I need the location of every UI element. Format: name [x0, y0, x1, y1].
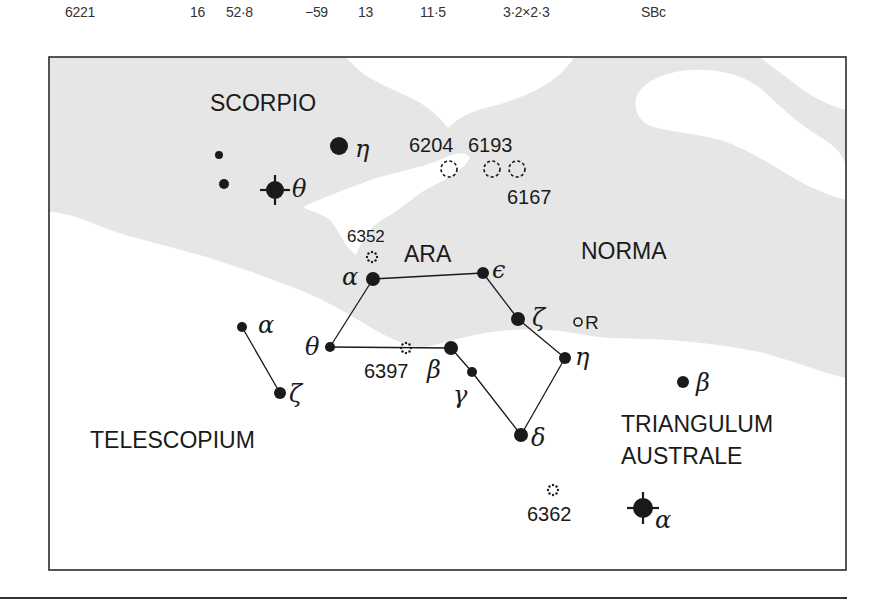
- star-dot-icon: [330, 137, 348, 155]
- star-dot-icon: [266, 181, 284, 199]
- star-greek-label: θ: [292, 175, 307, 203]
- star-dot-icon: [514, 428, 528, 442]
- star-greek-label: δ: [531, 424, 545, 452]
- cluster-label: 6362: [527, 503, 572, 525]
- star-sco-a: [215, 151, 223, 159]
- star-greek-label: β: [426, 356, 441, 384]
- star-dot-icon: [477, 267, 489, 279]
- constellation-name: AUSTRALE: [621, 443, 742, 469]
- star-greek-label: α: [342, 263, 358, 291]
- galaxy-label: 6167: [507, 186, 552, 208]
- star-dot-icon: [215, 151, 223, 159]
- constellation-name: ARA: [404, 241, 452, 267]
- star-dot-icon: [237, 322, 247, 332]
- star-dot-icon: [274, 387, 286, 399]
- star-dot-icon: [467, 367, 477, 377]
- star-dot-icon: [559, 352, 571, 364]
- star-greek-label: θ: [305, 333, 320, 361]
- star-greek-label: γ: [453, 381, 468, 409]
- star-greek-label: α: [655, 506, 671, 534]
- cluster-label: 6397: [364, 360, 409, 382]
- star-chart: 620461936167 635263976362 ηθαϵζηδγβθαζβα…: [0, 0, 891, 616]
- star-greek-label: β: [695, 369, 710, 397]
- star-greek-label: ζ: [532, 304, 547, 332]
- star-dot-icon: [677, 376, 689, 388]
- star-dot-icon: [366, 272, 380, 286]
- star-dot-icon: [633, 498, 653, 518]
- cluster-label: 6352: [347, 227, 385, 246]
- constellation-name: NORMA: [581, 238, 667, 264]
- star-dot-icon: [511, 312, 525, 326]
- star-greek-label: η: [575, 343, 590, 371]
- constellation-name: SCORPIO: [210, 90, 316, 116]
- star-greek-label: ϵ: [492, 256, 505, 284]
- constellation-name: TRIANGULUM: [621, 411, 773, 437]
- galaxy-label: 6204: [409, 134, 454, 156]
- galaxy-label: 6193: [468, 134, 513, 156]
- star-greek-label: η: [355, 135, 370, 163]
- page-rule: [0, 597, 847, 599]
- star-sco-b: [219, 179, 229, 189]
- star-greek-label: ζ: [289, 380, 304, 408]
- variable-star-label: R: [585, 312, 599, 333]
- star-dot-icon: [444, 341, 458, 355]
- constellation-name: TELESCOPIUM: [90, 427, 255, 453]
- star-greek-label: α: [258, 311, 274, 339]
- star-dot-icon: [325, 342, 335, 352]
- star-dot-icon: [219, 179, 229, 189]
